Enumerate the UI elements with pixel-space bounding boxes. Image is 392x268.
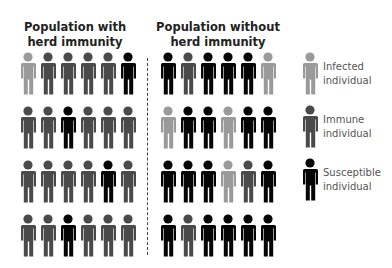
left-panel-title: Population with herd immunity [10, 20, 140, 50]
immune-person-icon [38, 214, 58, 257]
immune-person-icon [300, 105, 320, 148]
immune-person-icon [118, 160, 138, 203]
immune-person-icon [78, 106, 98, 149]
susceptible-person-icon [300, 158, 320, 201]
infected-person-icon [258, 52, 278, 95]
legend-item-immune: Immune individual [300, 105, 392, 148]
legend-item-susceptible: Susceptible individual [300, 158, 392, 201]
legend-item-infected: Infected individual [300, 52, 392, 95]
immune-person-icon [38, 52, 58, 95]
susceptible-person-icon [198, 160, 218, 203]
infected-person-icon [218, 106, 238, 149]
susceptible-person-icon [158, 52, 178, 95]
immune-person-icon [98, 214, 118, 257]
immune-person-icon [118, 106, 138, 149]
susceptible-person-icon [198, 106, 218, 149]
susceptible-person-icon [258, 106, 278, 149]
infected-person-icon [300, 52, 320, 95]
immune-person-icon [18, 214, 38, 257]
infected-person-icon [218, 160, 238, 203]
immune-person-icon [38, 106, 58, 149]
immune-person-icon [18, 106, 38, 149]
immune-person-icon [98, 52, 118, 95]
susceptible-person-icon [178, 160, 198, 203]
left-population-grid [18, 52, 138, 257]
immune-person-icon [78, 160, 98, 203]
legend-label: Infected individual [323, 60, 392, 88]
legend-label: Immune individual [323, 113, 392, 141]
immune-person-icon [178, 214, 198, 257]
susceptible-person-icon [238, 214, 258, 257]
susceptible-person-icon [198, 52, 218, 95]
immune-person-icon [18, 160, 38, 203]
legend-label: Susceptible individual [323, 166, 392, 194]
susceptible-person-icon [118, 52, 138, 95]
susceptible-person-icon [198, 214, 218, 257]
immune-person-icon [58, 52, 78, 95]
susceptible-person-icon [58, 214, 78, 257]
susceptible-person-icon [158, 214, 178, 257]
susceptible-person-icon [98, 160, 118, 203]
immune-person-icon [78, 214, 98, 257]
susceptible-person-icon [258, 160, 278, 203]
susceptible-person-icon [218, 52, 238, 95]
immune-person-icon [118, 214, 138, 257]
immune-person-icon [38, 160, 58, 203]
right-population-grid [158, 52, 278, 257]
divider [147, 58, 148, 255]
susceptible-person-icon [238, 106, 258, 149]
susceptible-person-icon [258, 214, 278, 257]
immune-person-icon [98, 106, 118, 149]
infected-person-icon [18, 52, 38, 95]
immune-person-icon [58, 160, 78, 203]
immune-person-icon [78, 52, 98, 95]
infected-person-icon [158, 106, 178, 149]
susceptible-person-icon [158, 160, 178, 203]
susceptible-person-icon [238, 52, 258, 95]
immune-person-icon [178, 52, 198, 95]
susceptible-person-icon [178, 106, 198, 149]
immune-person-icon [238, 160, 258, 203]
susceptible-person-icon [58, 106, 78, 149]
right-panel-title: Population without herd immunity [153, 20, 283, 50]
susceptible-person-icon [218, 214, 238, 257]
